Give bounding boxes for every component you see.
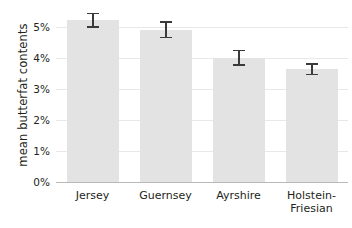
x-tick-label: Guernsey <box>129 189 202 202</box>
y-tick-label: 3% <box>10 83 50 95</box>
x-tick-label-line2: Friesian <box>275 202 348 215</box>
plot-area <box>56 8 348 182</box>
x-tick-label-line1: Guernsey <box>139 189 192 202</box>
error-bar-cap-bottom <box>306 74 318 76</box>
x-tick-label-line1: Ayrshire <box>216 189 261 202</box>
axis-baseline <box>56 182 348 183</box>
x-tick-label: Jersey <box>56 189 129 202</box>
y-tick-label: 4% <box>10 52 50 64</box>
bar <box>213 58 265 182</box>
error-bar-cap-bottom <box>233 64 245 66</box>
y-tick-label: 1% <box>10 145 50 157</box>
bar <box>67 20 119 182</box>
y-tick-label: 5% <box>10 21 50 33</box>
x-tick-label: Ayrshire <box>202 189 275 202</box>
x-tick-label-line1: Jersey <box>76 189 110 202</box>
bar-chart: mean butterfat contents 5%4%3%2%1%0% Jer… <box>0 0 352 228</box>
y-tick-label: 2% <box>10 114 50 126</box>
bar <box>140 30 192 182</box>
y-tick-label: 0% <box>10 176 50 188</box>
x-tick-label: Holstein-Friesian <box>275 189 348 215</box>
error-bar-cap-bottom <box>160 37 172 39</box>
x-tick-label-line1: Holstein- <box>287 189 336 202</box>
error-bar-cap-bottom <box>87 26 99 28</box>
bar <box>286 69 338 182</box>
